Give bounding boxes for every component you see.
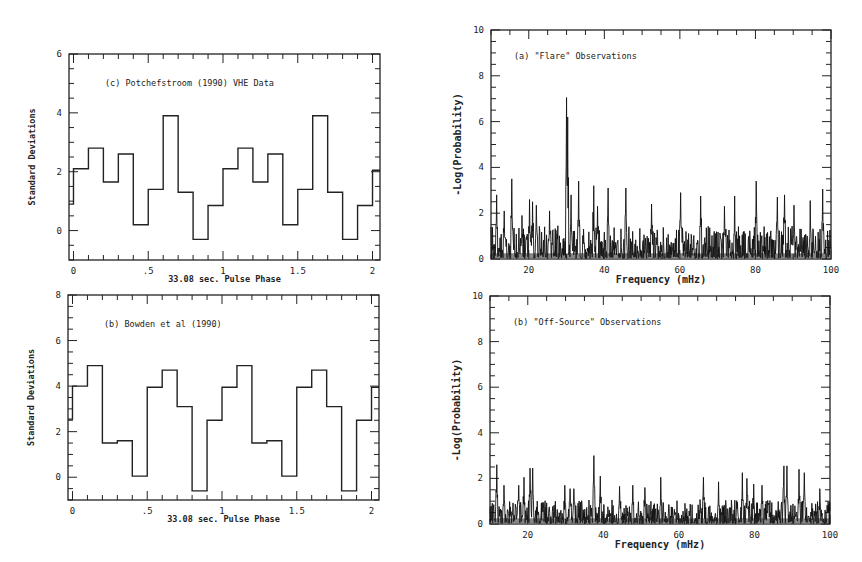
- y-axis-label: Standard Deviations: [26, 349, 36, 446]
- panel-title: (b) Bowden et al (1990): [104, 319, 222, 329]
- chart-flare-periodogram: 204060801000246810Frequency (mHz)-Log(Pr…: [452, 25, 839, 285]
- y-tick-label: 4: [479, 162, 484, 172]
- x-tick-label: 100: [822, 530, 838, 540]
- figure-canvas: 0.511.52024633.08 sec. Pulse PhaseStanda…: [0, 0, 862, 562]
- y-tick-label: 0: [56, 472, 61, 482]
- x-tick-label: 80: [750, 265, 761, 275]
- panel-title: (b) "Off-Source" Observations: [513, 317, 661, 327]
- baseline-noise: [492, 253, 830, 258]
- y-tick-label: 4: [57, 108, 62, 118]
- x-axis-label: Frequency (mHz): [615, 539, 705, 550]
- panel-title: (c) Potchefstroom (1990) VHE Data: [105, 78, 274, 88]
- x-tick-label: 2: [369, 506, 374, 516]
- y-tick-label: 0: [479, 254, 484, 264]
- baseline-noise: [491, 518, 829, 523]
- plot-frame: [490, 296, 830, 524]
- y-tick-label: 10: [472, 291, 483, 301]
- y-tick-label: 6: [56, 336, 61, 346]
- x-tick-label: 100: [823, 265, 839, 275]
- y-tick-label: 6: [479, 117, 484, 127]
- y-tick-label: 6: [57, 49, 62, 59]
- histogram-step-line: [68, 366, 379, 491]
- y-tick-label: 4: [56, 381, 61, 391]
- x-tick-label: 0: [70, 506, 75, 516]
- y-axis-label: -Log(Probability): [452, 93, 463, 195]
- x-tick-label: 40: [599, 265, 610, 275]
- x-axis-ticks: 20406080100: [491, 30, 839, 275]
- x-tick-label: 0: [71, 266, 76, 276]
- chart-pulse-phase-bowden: 0.511.520246833.08 sec. Pulse PhaseStand…: [26, 290, 379, 524]
- y-tick-label: 8: [56, 290, 61, 300]
- y-tick-label: 0: [478, 519, 483, 529]
- x-tick-label: 20: [522, 530, 533, 540]
- y-axis-label: Standard Deviations: [27, 108, 37, 205]
- y-tick-label: 4: [478, 428, 483, 438]
- y-tick-label: 2: [57, 167, 62, 177]
- periodogram-line: [491, 98, 831, 259]
- y-tick-label: 0: [57, 226, 62, 236]
- x-axis-label: Frequency (mHz): [616, 274, 706, 285]
- x-axis-label: 33.08 sec. Pulse Phase: [167, 514, 280, 524]
- plot-frame: [491, 30, 831, 259]
- x-tick-label: 2: [370, 266, 375, 276]
- y-tick-label: 2: [479, 208, 484, 218]
- y-tick-label: 10: [473, 25, 484, 35]
- panel-title: (a) "Flare" Observations: [514, 51, 637, 61]
- figure: 0.511.52024633.08 sec. Pulse PhaseStanda…: [0, 0, 862, 562]
- chart-pulse-phase-potchefstroom: 0.511.52024633.08 sec. Pulse PhaseStanda…: [27, 49, 380, 284]
- x-axis-label: 33.08 sec. Pulse Phase: [168, 274, 281, 284]
- x-tick-label: 1.5: [289, 506, 305, 516]
- y-tick-label: 8: [479, 71, 484, 81]
- chart-off-source-periodogram: 204060801000246810Frequency (mHz)-Log(Pr…: [451, 291, 838, 550]
- x-tick-label: .5: [142, 506, 153, 516]
- y-axis-label: -Log(Probability): [451, 359, 462, 461]
- histogram-step-line: [69, 116, 380, 240]
- x-tick-label: 20: [523, 265, 534, 275]
- x-tick-label: 80: [749, 530, 760, 540]
- y-tick-label: 2: [56, 427, 61, 437]
- y-tick-label: 8: [478, 337, 483, 347]
- x-tick-label: 40: [598, 530, 609, 540]
- y-tick-label: 6: [478, 382, 483, 392]
- y-tick-label: 2: [478, 473, 483, 483]
- periodogram-line: [490, 456, 830, 524]
- x-tick-label: 1.5: [290, 266, 306, 276]
- x-tick-label: .5: [143, 266, 154, 276]
